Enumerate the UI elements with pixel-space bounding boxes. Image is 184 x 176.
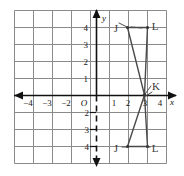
y-tick-label-4: 4 [84, 23, 89, 33]
origin-label: O [81, 98, 88, 108]
x-tick-label-neg4: −4 [23, 98, 33, 108]
annotation-l-lower: L [152, 142, 159, 154]
annotation-l-upper: L [152, 20, 159, 32]
x-tick-label-neg3: −3 [42, 98, 52, 108]
y-axis [93, 9, 101, 167]
y-axis-label: y [101, 13, 106, 23]
grid-lines [15, 11, 167, 164]
figure-shape [128, 28, 148, 147]
y-tick-label-2: 2 [84, 57, 89, 67]
x-tick-label-neg2: −2 [61, 98, 71, 108]
vertex-l-upper [146, 26, 149, 29]
graph-canvas: −4 −3 −2 1 2 3 4 4 3 2 1 2 3 4 O x y J L… [0, 0, 184, 176]
x-tick-label-2: 2 [126, 98, 131, 108]
x-axis [14, 92, 177, 100]
y-tick-label-1: 1 [84, 74, 89, 84]
y-tick-label-neg4: 4 [85, 142, 90, 152]
y-tick-label-neg2: 2 [85, 108, 90, 118]
x-axis-label: x [169, 97, 174, 107]
x-tick-label-3: 3 [143, 98, 148, 108]
y-tick-label-3: 3 [84, 40, 89, 50]
coordinate-graph-figure: −4 −3 −2 1 2 3 4 4 3 2 1 2 3 4 O x y J L… [0, 0, 184, 176]
y-tick-label-neg3: 3 [85, 125, 90, 135]
annotation-j-upper: J [114, 22, 119, 34]
x-tick-label-4: 4 [158, 98, 163, 108]
annotation-j-lower: J [114, 142, 119, 154]
x-tick-label-1: 1 [112, 98, 117, 108]
annotation-k: K [152, 80, 160, 92]
